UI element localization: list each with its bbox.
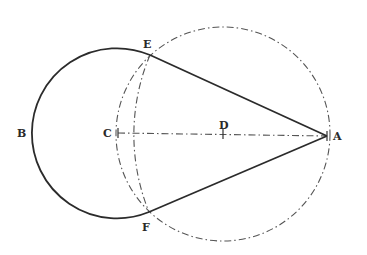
label-b: B	[17, 127, 26, 140]
circle-c-arc	[32, 48, 150, 218]
tangent-a-e	[150, 55, 327, 136]
label-c: C	[103, 127, 112, 140]
tangent-a-f	[149, 136, 327, 212]
geometry-diagram: E F B C D A	[0, 0, 367, 255]
label-a: A	[332, 130, 342, 143]
label-d: D	[219, 119, 229, 132]
label-e: E	[143, 38, 151, 51]
label-f: F	[142, 221, 150, 234]
